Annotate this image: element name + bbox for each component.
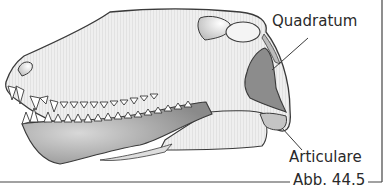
articulare-label: Articulare — [289, 150, 362, 165]
figure-caption: Abb. 44.5 — [290, 173, 368, 188]
skull-diagram: Quadratum Articulare Abb. 44.5 — [0, 0, 386, 194]
quadratum-label: Quadratum — [272, 14, 357, 29]
articulare-leader-line — [282, 128, 302, 150]
orbit — [226, 22, 260, 42]
